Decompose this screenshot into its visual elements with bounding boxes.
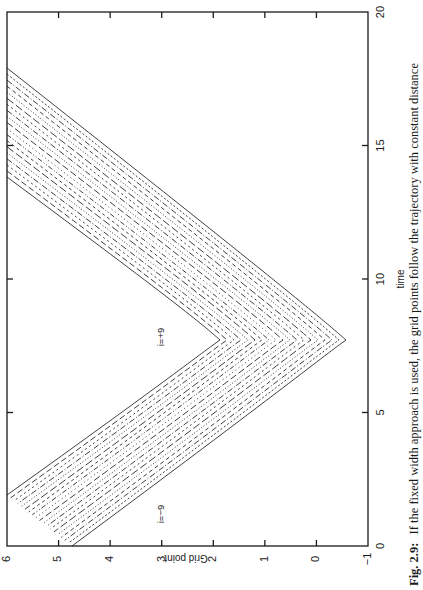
- curve-intermediate: [7, 141, 262, 512]
- annotation-i-plus-9: i=+9: [155, 328, 166, 347]
- curve-intermediate: [7, 135, 269, 515]
- curve-intermediate: [7, 159, 241, 504]
- curve-intermediate: [7, 74, 339, 543]
- x-tick-label: 5: [374, 409, 386, 415]
- x-tick-label: 20: [374, 6, 386, 18]
- curve-intermediate: [7, 116, 290, 523]
- x-tick-label: 15: [374, 139, 386, 151]
- x-tick-label: 10: [374, 273, 386, 285]
- plot-frame: [7, 12, 368, 546]
- curve-intermediate: [7, 153, 248, 507]
- curve-intermediate: [7, 171, 227, 498]
- curve-intermediate: [7, 123, 283, 521]
- y-tick-label: 1: [258, 556, 270, 562]
- caption-label: Fig. 2.9:: [407, 543, 421, 586]
- curve-intermediate: [7, 98, 311, 532]
- y-axis-label: Grid point: [164, 553, 208, 564]
- figure-caption: Fig. 2.9: If the fixed width approach is…: [407, 63, 421, 586]
- curve-intermediate: [7, 104, 304, 529]
- caption-text: If the fixed width approach is used, the…: [407, 63, 421, 535]
- y-tick-label: 6: [0, 556, 12, 562]
- annotation-i-minus-9: i=−9: [155, 505, 166, 524]
- y-tick-label: 0: [309, 556, 321, 562]
- rotated-chart: 05101520−10123456 time Grid point i=−9 i…: [0, 0, 423, 590]
- curve-intermediate: [7, 92, 318, 534]
- curve-i-plus-9: [7, 177, 220, 495]
- curve-i-minus-9: [7, 68, 346, 546]
- axis-ticks: [7, 12, 368, 546]
- x-tick-label: 0: [374, 543, 386, 549]
- x-axis-label: time: [395, 269, 406, 288]
- y-tick-label: 5: [51, 556, 63, 562]
- trajectory-curves: [7, 68, 346, 546]
- axis-tick-labels: 05101520−10123456: [0, 6, 386, 565]
- y-tick-label: −1: [361, 553, 373, 566]
- curve-intermediate: [7, 147, 255, 509]
- y-tick-label: 4: [103, 556, 115, 562]
